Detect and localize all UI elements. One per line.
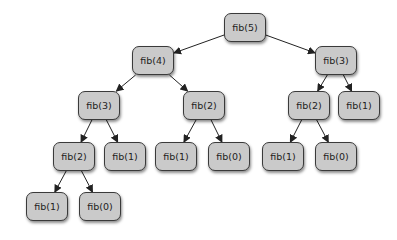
- edge-n3l-n1a: [106, 120, 117, 142]
- tree-node-n1b: fib(1): [155, 142, 197, 171]
- edge-n2a-n1b: [184, 120, 196, 142]
- tree-node-n4: fib(4): [132, 46, 174, 75]
- edge-n2r-n1c: [290, 120, 301, 142]
- tree-node-n3l: fib(3): [78, 91, 120, 120]
- tree-node-n2r: fib(2): [288, 91, 330, 120]
- edge-n3l-n2l: [81, 120, 92, 142]
- tree-node-n0b: fib(0): [315, 142, 357, 171]
- tree-node-n2a: fib(2): [183, 91, 225, 120]
- edge-n3r-n1r: [343, 75, 351, 91]
- tree-node-n5: fib(5): [224, 13, 266, 42]
- tree-node-n1r: fib(1): [338, 91, 380, 120]
- edge-n4-n3l: [116, 75, 135, 91]
- edge-n2r-n0b: [317, 120, 329, 142]
- tree-node-n1d: fib(1): [26, 192, 68, 221]
- edge-n5-n4: [174, 35, 224, 53]
- edge-n2l-n1d: [55, 171, 66, 192]
- tree-node-n1a: fib(1): [104, 142, 146, 171]
- tree-node-n1c: fib(1): [262, 142, 304, 171]
- edge-n2a-n0a: [211, 120, 222, 142]
- edge-n3r-n2r: [318, 75, 328, 91]
- tree-node-n2l: fib(2): [53, 142, 95, 171]
- tree-node-n3r: fib(3): [315, 46, 357, 75]
- tree-node-n0a: fib(0): [208, 142, 250, 171]
- tree-node-n0c: fib(0): [79, 192, 121, 221]
- edge-n4-n2a: [169, 75, 187, 91]
- edge-n2l-n0c: [82, 171, 93, 192]
- fib-recursion-tree: fib(5)fib(4)fib(3)fib(3)fib(2)fib(2)fib(…: [0, 0, 397, 240]
- edge-n5-n3r: [266, 35, 315, 53]
